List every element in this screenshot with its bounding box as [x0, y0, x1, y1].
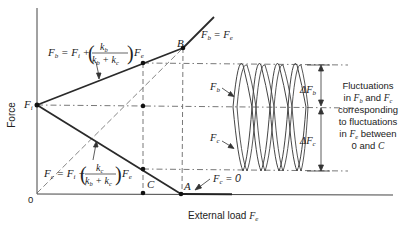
guide-lines: [37, 63, 358, 171]
svg-text:): ): [115, 163, 122, 186]
svg-text:in Fe between: in Fe between: [339, 128, 396, 140]
y-axis-label: Force: [6, 102, 17, 128]
svg-text:): ): [127, 42, 134, 65]
delta-fc-label: ΔFc: [299, 135, 317, 148]
svg-text:Fe: Fe: [133, 46, 144, 60]
fc-wave-label: Fc: [209, 132, 220, 145]
svg-text:Fb = Fi +: Fb = Fi +: [47, 46, 90, 60]
fb-waveform: [233, 63, 306, 107]
label-a: A: [183, 180, 191, 192]
guide-fi: [37, 105, 358, 108]
label-b: B: [177, 37, 184, 49]
bolt-force-equation: Fb = Fi + ( kb kb + kc ) Fe: [47, 41, 144, 66]
point-c: [141, 191, 146, 196]
clamp-force-equation: Fc = Fi − ( kc kb + kc ) Fe: [43, 162, 132, 187]
fb-wave-label: Fb: [209, 81, 220, 94]
svg-text:kb + kc: kb + kc: [92, 54, 119, 66]
svg-text:Fe: Fe: [121, 167, 132, 181]
svg-text:kc: kc: [96, 162, 103, 174]
point-a: [179, 192, 184, 197]
svg-text:to fluctuations: to fluctuations: [339, 116, 398, 127]
point-fc-at-c: [141, 167, 146, 172]
fb-equals-fe-label: Fb = Fe: [200, 29, 233, 42]
delta-arrows: [307, 65, 330, 171]
fc-equals-zero-label: Fc = 0: [212, 172, 241, 186]
point-fi: [35, 103, 40, 108]
fluctuation-annotation: Fluctuations in Fb and Fc corresponding …: [338, 80, 398, 151]
bolted-joint-force-diagram: Force 0 External load Fe Fi B C A Fb = F…: [0, 0, 405, 230]
x-axis-label: External load Fe: [188, 210, 258, 223]
svg-text:0 and C: 0 and C: [352, 140, 385, 151]
delta-fb-label: ΔFb: [299, 84, 317, 97]
label-c: C: [147, 178, 155, 190]
fi-label: Fi: [23, 98, 33, 112]
guide-b-vertical: [182, 48, 183, 194]
origin-label: 0: [28, 194, 33, 205]
svg-text:corresponding: corresponding: [338, 104, 398, 115]
point-fb-at-c: [141, 61, 146, 66]
svg-text:Fluctuations: Fluctuations: [342, 80, 393, 91]
svg-text:kb: kb: [100, 41, 108, 53]
waveforms: [233, 63, 308, 171]
svg-text:kb + kc: kb + kc: [85, 175, 112, 187]
vertical-guides: [143, 48, 183, 194]
point-fi-at-c: [141, 104, 146, 109]
bolt-equals-external-line: [183, 17, 214, 48]
svg-text:in Fb and Fc: in Fb and Fc: [344, 92, 393, 104]
